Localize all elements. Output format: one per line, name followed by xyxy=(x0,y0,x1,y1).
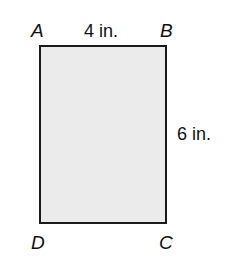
dimension-label-right: 6 in. xyxy=(177,125,211,143)
dimension-label-top: 4 in. xyxy=(84,22,118,40)
vertex-label-b: B xyxy=(160,21,173,40)
rectangle-abcd xyxy=(39,45,167,224)
vertex-label-c: C xyxy=(159,233,173,252)
vertex-label-d: D xyxy=(31,233,45,252)
vertex-label-a: A xyxy=(31,21,44,40)
